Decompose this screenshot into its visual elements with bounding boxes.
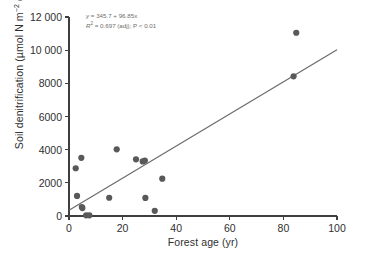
y-tick-label: 0 — [56, 210, 62, 222]
y-tick-label: 10 000 — [30, 44, 62, 56]
annotation-equation: y = 345.7 + 96.85x — [86, 12, 156, 20]
y-axis-title-mid: d — [13, 0, 25, 4]
y-tick-label: 4000 — [39, 144, 62, 156]
data-point — [142, 195, 148, 201]
data-point — [152, 208, 158, 214]
x-tick-marks — [69, 216, 337, 220]
plot-canvas — [0, 0, 367, 259]
data-point — [142, 158, 148, 164]
x-tick-label: 0 — [66, 222, 72, 234]
annotation-stats: R2 = 0.697 (adj); P < 0.01 — [86, 20, 156, 30]
x-tick-label: 80 — [278, 222, 290, 234]
y-tick-label: 2000 — [39, 177, 62, 189]
data-point — [74, 193, 80, 199]
x-tick-label: 60 — [224, 222, 236, 234]
data-point — [78, 155, 84, 161]
y-tick-marks — [65, 17, 69, 216]
y-axis-title-sup-area: −2 — [13, 4, 20, 12]
data-point — [79, 205, 85, 211]
data-point — [159, 176, 165, 182]
y-tick-label: 6000 — [39, 111, 62, 123]
y-axis-title-prefix: Soil denitrification (µmol N m — [13, 12, 25, 149]
x-axis-title: Forest age (yr) — [69, 236, 337, 248]
data-point — [290, 73, 296, 79]
regression-line — [69, 50, 337, 211]
data-point — [73, 165, 79, 171]
scatter-plot-figure: 0200040006000800010 00012 000 0204060801… — [0, 0, 367, 259]
data-point — [86, 212, 92, 218]
x-tick-label: 40 — [170, 222, 182, 234]
y-tick-label: 12 000 — [30, 11, 62, 23]
x-tick-label: 20 — [117, 222, 129, 234]
y-axis-title: Soil denitrification (µmol N m−2 d−1) — [13, 0, 26, 171]
data-point — [133, 156, 139, 162]
y-tick-label: 8000 — [39, 77, 62, 89]
data-points — [73, 30, 300, 219]
data-point — [114, 146, 120, 152]
data-point — [106, 195, 112, 201]
annotation-equation-rest: = 345.7 + 96.85x — [89, 12, 137, 19]
regression-annotation: y = 345.7 + 96.85x R2 = 0.697 (adj); P <… — [86, 12, 156, 31]
data-point — [293, 30, 299, 36]
x-tick-label: 100 — [328, 222, 346, 234]
annotation-stats-rest: = 0.697 (adj); P < 0.01 — [93, 22, 156, 29]
